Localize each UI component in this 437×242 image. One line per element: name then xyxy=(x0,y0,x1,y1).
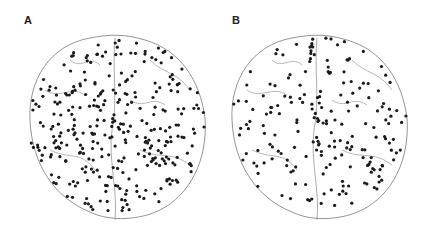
brain-render-b xyxy=(218,0,437,242)
panel-b: B xyxy=(218,0,437,242)
brain-render-a xyxy=(0,0,218,242)
panel-a: A xyxy=(0,0,218,242)
